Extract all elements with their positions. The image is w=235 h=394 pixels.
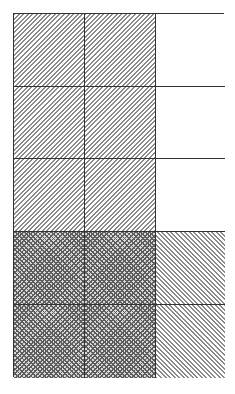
grid-cell-r3-c3-empty <box>156 159 225 232</box>
grid-cell-r1-c1-hatch-fwd <box>14 14 85 87</box>
grid-cell-r5-c1-crosshatch <box>14 305 85 378</box>
grid-cell-r2-c1-hatch-fwd <box>14 87 85 159</box>
grid-cell-r5-c3-hatch-back <box>156 305 225 378</box>
grid-cell-r5-c2-crosshatch <box>85 305 156 378</box>
grid-cell-r4-c2-crosshatch <box>85 232 156 305</box>
area-model-grid <box>13 13 224 377</box>
grid-cell-r2-c3-empty <box>156 87 225 159</box>
grid-cell-r3-c1-hatch-fwd <box>14 159 85 232</box>
grid-cell-r2-c2-hatch-fwd <box>85 87 156 159</box>
grid-cell-r1-c2-hatch-fwd <box>85 14 156 87</box>
grid-cell-r4-c3-hatch-back <box>156 232 225 305</box>
grid-cell-r1-c3-empty <box>156 14 225 87</box>
grid-cell-r3-c2-hatch-fwd <box>85 159 156 232</box>
grid-cell-r4-c1-crosshatch <box>14 232 85 305</box>
